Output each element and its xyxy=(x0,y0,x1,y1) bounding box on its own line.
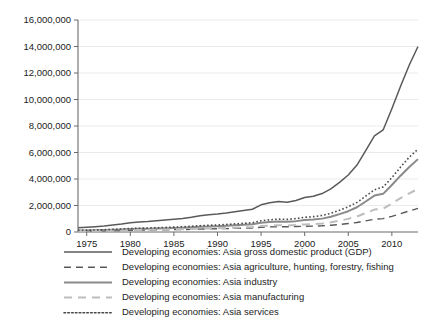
legend-item-label: Developing economies: Asia gross domesti… xyxy=(122,246,372,257)
y-axis-tick-labels-group: 02,000,0004,000,0006,000,0008,000,00010,… xyxy=(23,14,71,237)
data-series-group xyxy=(78,47,418,232)
legend-group: Developing economies: Asia gross domesti… xyxy=(64,246,394,318)
x-axis-tick-label: 1975 xyxy=(76,238,97,249)
line-chart: 02,000,0004,000,0006,000,0008,000,00010,… xyxy=(0,0,437,331)
chart-container: 02,000,0004,000,0006,000,0008,000,00010,… xyxy=(0,0,437,331)
series-line-4 xyxy=(78,149,418,230)
legend-item-label: Developing economies: Asia manufacturing xyxy=(122,291,304,302)
y-axis-tick-label: 0 xyxy=(66,226,71,237)
y-axis-tick-label: 14,000,000 xyxy=(23,41,71,52)
x-axis-tick-label: 2010 xyxy=(381,238,402,249)
y-axis-tick-label: 16,000,000 xyxy=(23,14,71,25)
y-axis-tick-label: 12,000,000 xyxy=(23,67,71,78)
legend-item-label: Developing economies: Asia services xyxy=(122,306,279,317)
legend-item-label: Developing economies: Asia industry xyxy=(122,276,278,287)
series-line-2 xyxy=(78,159,418,230)
y-axis-tick-label: 8,000,000 xyxy=(29,120,71,131)
y-axis-ticks-group xyxy=(74,20,78,232)
y-axis-tick-label: 10,000,000 xyxy=(23,94,71,105)
y-axis-tick-label: 2,000,000 xyxy=(29,200,71,211)
y-axis-tick-label: 6,000,000 xyxy=(29,147,71,158)
y-axis-tick-label: 4,000,000 xyxy=(29,173,71,184)
x-axis-ticks-group xyxy=(87,232,392,236)
gridlines-group xyxy=(78,20,418,206)
legend-item-label: Developing economies: Asia agriculture, … xyxy=(122,261,394,272)
